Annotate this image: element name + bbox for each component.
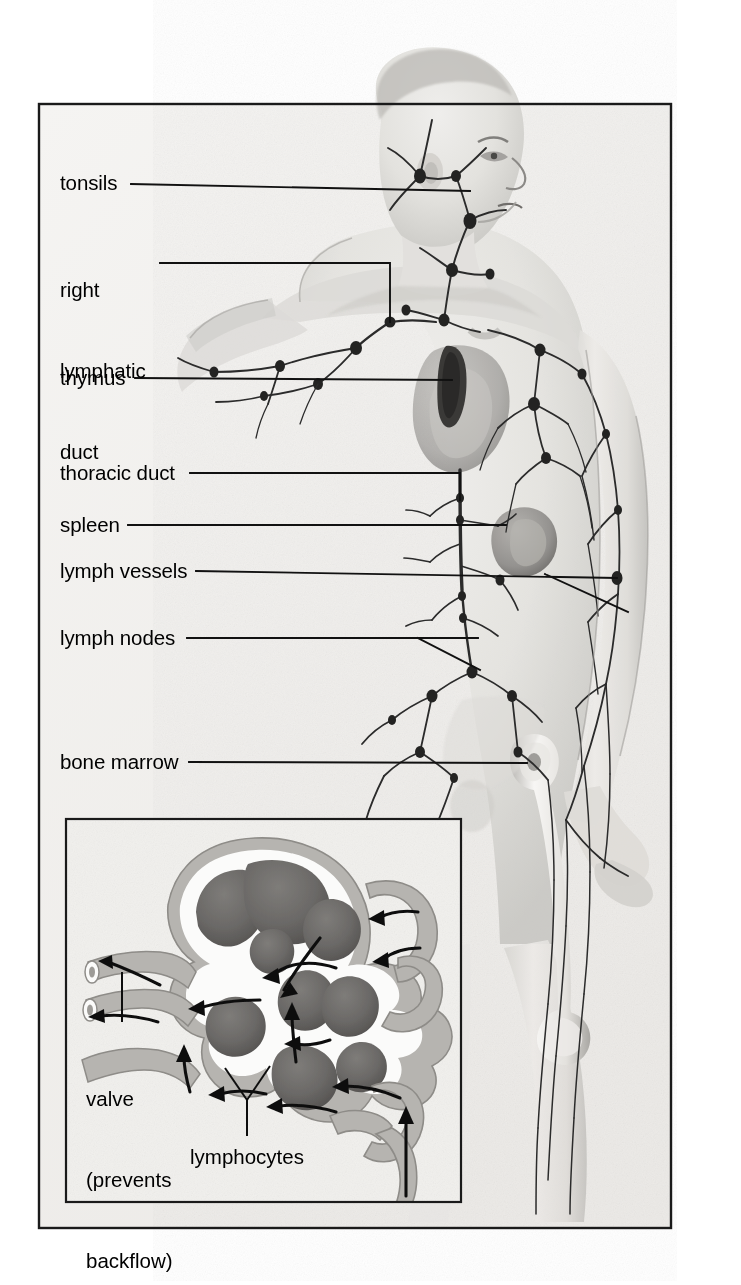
label-tonsils: tonsils: [60, 170, 117, 196]
label-lymph-vessels: lymph vessels: [60, 558, 187, 584]
label-valve-line2: (prevents: [86, 1166, 173, 1193]
label-right-lymphatic-duct-line1: right: [60, 276, 146, 303]
label-valve-line3: backflow): [86, 1247, 173, 1274]
label-bone-marrow: bone marrow: [60, 749, 179, 775]
leader-bone-marrow: [189, 762, 527, 763]
label-valve: valve (prevents backflow): [86, 1031, 173, 1285]
label-spleen: spleen: [60, 512, 120, 538]
label-thoracic-duct: thoracic duct: [60, 460, 175, 486]
label-lymph-nodes: lymph nodes: [60, 625, 175, 651]
label-thymus: thymus: [60, 365, 125, 391]
label-lymphocytes: lymphocytes: [190, 1143, 304, 1170]
label-valve-line1: valve: [86, 1085, 173, 1112]
